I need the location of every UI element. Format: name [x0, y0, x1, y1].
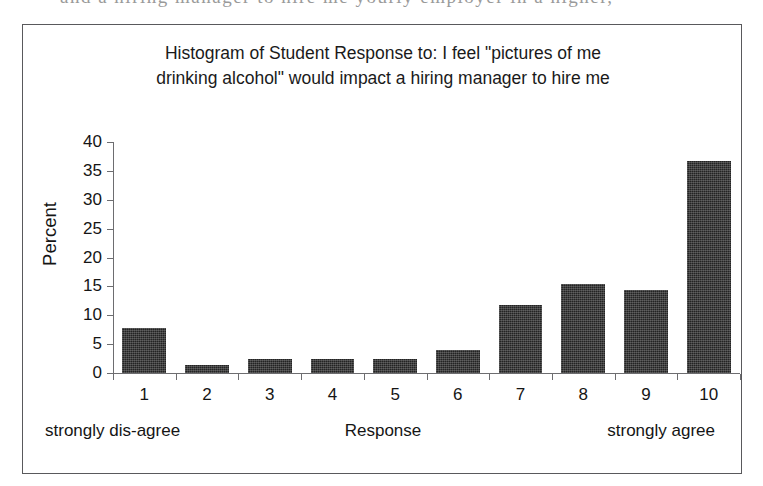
bar-2	[185, 365, 229, 373]
y-axis-tick	[107, 286, 114, 287]
bar-6	[436, 350, 480, 373]
y-axis-tick-label: 35	[57, 162, 102, 179]
scanned-page-bleed: and a hiring manager to hire me yourly e…	[0, 0, 763, 20]
bar-9	[624, 290, 668, 373]
x-axis-tick	[740, 374, 741, 380]
chart-title-line-2: drinking alcohol" would impact a hiring …	[23, 66, 743, 91]
y-axis-tick-label: 30	[57, 191, 102, 208]
bar-3	[248, 359, 292, 373]
bar-7	[499, 305, 543, 373]
x-axis-tick	[552, 374, 553, 380]
y-axis-tick-label: 5	[57, 335, 102, 352]
x-axis-tick-label: 9	[616, 385, 676, 405]
chart-title: Histogram of Student Response to: I feel…	[23, 41, 743, 91]
x-axis-tick	[238, 374, 239, 380]
y-axis-tick-label: 10	[57, 306, 102, 323]
x-axis-tick	[489, 374, 490, 380]
scanned-page-bleed-text: and a hiring manager to hire me yourly e…	[60, 0, 614, 8]
chart-frame: Histogram of Student Response to: I feel…	[22, 24, 742, 474]
y-axis-tick-label: 40	[57, 133, 102, 150]
y-axis-tick-label: 15	[57, 277, 102, 294]
x-axis-tick	[364, 374, 365, 380]
bar-8	[561, 284, 605, 373]
y-axis-tick	[107, 344, 114, 345]
x-axis-tick-label: 2	[177, 385, 237, 405]
x-axis-tick	[427, 374, 428, 380]
bar-1	[122, 328, 166, 373]
y-axis-tick-label: 0	[57, 364, 102, 381]
x-axis-tick	[113, 374, 114, 380]
y-axis-tick	[107, 229, 114, 230]
x-axis-tick-label: 5	[365, 385, 425, 405]
bar-10	[687, 161, 731, 373]
x-axis-tick-label: 3	[240, 385, 300, 405]
x-axis-tick-label: 6	[428, 385, 488, 405]
y-axis-tick-label: 20	[57, 249, 102, 266]
x-axis-tick-label: 1	[114, 385, 174, 405]
y-axis-tick	[107, 258, 114, 259]
y-axis-tick	[107, 315, 114, 316]
bar-4	[311, 359, 355, 373]
y-axis-tick	[107, 171, 114, 172]
x-axis-tick-label: 7	[491, 385, 551, 405]
x-axis-tick-label: 8	[553, 385, 613, 405]
y-axis-tick-label: 25	[57, 220, 102, 237]
y-axis-tick	[107, 200, 114, 201]
chart-title-line-1: Histogram of Student Response to: I feel…	[23, 41, 743, 66]
bar-5	[373, 359, 417, 373]
x-axis-tick-label: 4	[302, 385, 362, 405]
x-axis-tick	[615, 374, 616, 380]
x-axis-tick-label: 10	[679, 385, 739, 405]
scale-caption-right: strongly agree	[607, 421, 715, 441]
x-axis-tick	[677, 374, 678, 380]
y-axis-tick	[107, 142, 114, 143]
x-axis-tick	[176, 374, 177, 380]
x-axis-tick	[301, 374, 302, 380]
